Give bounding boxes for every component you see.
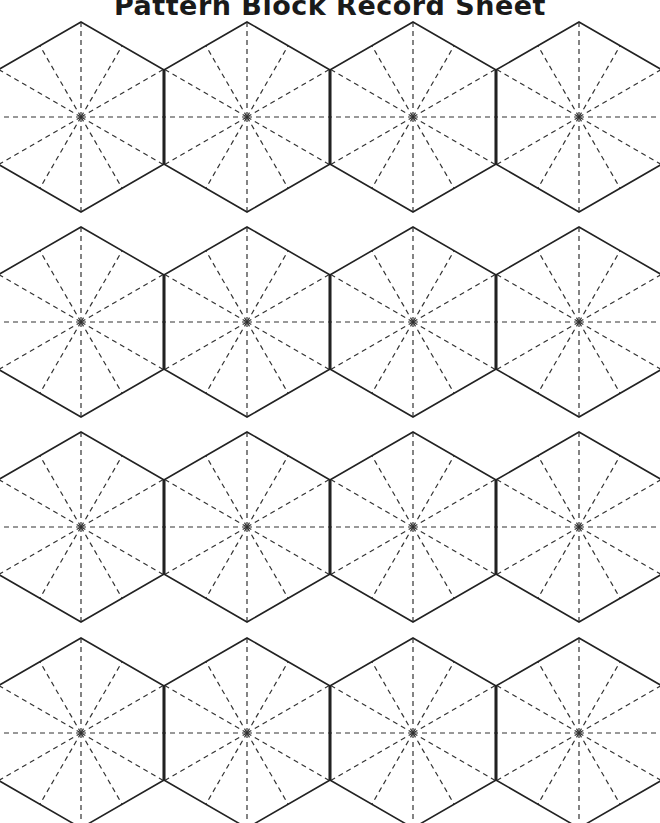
dashed-guide-line bbox=[81, 251, 122, 322]
dashed-guide-line bbox=[0, 70, 81, 118]
dashed-guide-line bbox=[81, 686, 163, 734]
dashed-guide-line bbox=[413, 251, 454, 322]
dashed-guide-line bbox=[40, 662, 81, 733]
dashed-guide-line bbox=[579, 46, 620, 117]
hexagon-block-7 bbox=[331, 227, 496, 417]
hexagon-block-11 bbox=[331, 432, 496, 622]
dashed-guide-line bbox=[413, 117, 495, 165]
dashed-guide-line bbox=[81, 322, 122, 393]
dashed-guide-line bbox=[372, 456, 413, 527]
dashed-guide-line bbox=[372, 527, 413, 598]
dashed-guide-line bbox=[497, 117, 579, 165]
dashed-guide-line bbox=[372, 251, 413, 322]
dashed-guide-line bbox=[247, 527, 329, 575]
dashed-guide-line bbox=[165, 480, 247, 528]
dashed-guide-line bbox=[413, 275, 495, 323]
dashed-guide-line bbox=[0, 275, 81, 323]
dashed-guide-line bbox=[81, 527, 122, 598]
dashed-guide-line bbox=[579, 527, 620, 598]
dashed-guide-line bbox=[579, 480, 660, 528]
dashed-guide-line bbox=[0, 117, 81, 165]
hexagon-block-8 bbox=[497, 227, 660, 417]
dashed-guide-line bbox=[81, 70, 163, 118]
dashed-guide-line bbox=[538, 46, 579, 117]
dashed-guide-line bbox=[206, 322, 247, 393]
dashed-guide-line bbox=[81, 733, 163, 781]
dashed-guide-line bbox=[579, 733, 620, 804]
dashed-guide-line bbox=[206, 46, 247, 117]
dashed-guide-line bbox=[331, 322, 413, 370]
hexagon-block-4 bbox=[497, 22, 660, 212]
dashed-guide-line bbox=[331, 527, 413, 575]
dashed-guide-line bbox=[0, 480, 81, 528]
dashed-guide-line bbox=[81, 456, 122, 527]
hexagon-block-14 bbox=[165, 638, 330, 823]
dashed-guide-line bbox=[40, 456, 81, 527]
dashed-guide-line bbox=[206, 527, 247, 598]
dashed-guide-line bbox=[413, 456, 454, 527]
dashed-guide-line bbox=[579, 322, 620, 393]
dashed-guide-line bbox=[497, 686, 579, 734]
dashed-guide-line bbox=[206, 251, 247, 322]
hexagon-block-12 bbox=[497, 432, 660, 622]
dashed-guide-line bbox=[538, 117, 579, 188]
dashed-guide-line bbox=[81, 527, 163, 575]
dashed-guide-line bbox=[331, 480, 413, 528]
dashed-guide-line bbox=[0, 527, 81, 575]
dashed-guide-line bbox=[413, 527, 495, 575]
dashed-guide-line bbox=[413, 46, 454, 117]
dashed-guide-line bbox=[247, 662, 288, 733]
dashed-guide-line bbox=[0, 733, 81, 781]
dashed-guide-line bbox=[165, 275, 247, 323]
dashed-guide-line bbox=[165, 322, 247, 370]
dashed-guide-line bbox=[413, 117, 454, 188]
dashed-guide-line bbox=[206, 733, 247, 804]
dashed-guide-line bbox=[206, 662, 247, 733]
dashed-guide-line bbox=[165, 733, 247, 781]
dashed-guide-line bbox=[165, 117, 247, 165]
dashed-guide-line bbox=[247, 322, 329, 370]
dashed-guide-line bbox=[247, 46, 288, 117]
dashed-guide-line bbox=[372, 117, 413, 188]
dashed-guide-line bbox=[247, 117, 329, 165]
dashed-guide-line bbox=[81, 117, 163, 165]
dashed-guide-line bbox=[81, 117, 122, 188]
dashed-guide-line bbox=[538, 251, 579, 322]
dashed-guide-line bbox=[497, 275, 579, 323]
dashed-guide-line bbox=[247, 70, 329, 118]
hexagon-block-6 bbox=[165, 227, 330, 417]
dashed-guide-line bbox=[538, 322, 579, 393]
dashed-guide-line bbox=[413, 733, 495, 781]
dashed-guide-line bbox=[579, 117, 620, 188]
hexagon-block-13 bbox=[0, 638, 163, 823]
dashed-guide-line bbox=[331, 686, 413, 734]
dashed-guide-line bbox=[497, 527, 579, 575]
dashed-guide-line bbox=[0, 686, 81, 734]
dashed-guide-line bbox=[247, 527, 288, 598]
dashed-guide-line bbox=[579, 686, 660, 734]
hexagon-block-15 bbox=[331, 638, 496, 823]
dashed-guide-line bbox=[40, 527, 81, 598]
dashed-guide-line bbox=[165, 70, 247, 118]
dashed-guide-line bbox=[413, 70, 495, 118]
dashed-guide-line bbox=[331, 275, 413, 323]
dashed-guide-line bbox=[247, 733, 288, 804]
dashed-guide-line bbox=[579, 117, 660, 165]
dashed-guide-line bbox=[40, 322, 81, 393]
dashed-guide-line bbox=[579, 251, 620, 322]
hexagon-block-3 bbox=[331, 22, 496, 212]
dashed-guide-line bbox=[247, 275, 329, 323]
dashed-guide-line bbox=[538, 733, 579, 804]
dashed-guide-line bbox=[247, 456, 288, 527]
hexagon-block-16 bbox=[497, 638, 660, 823]
dashed-guide-line bbox=[40, 117, 81, 188]
dashed-guide-line bbox=[0, 322, 81, 370]
dashed-guide-line bbox=[165, 686, 247, 734]
dashed-guide-line bbox=[206, 456, 247, 527]
dashed-guide-line bbox=[81, 662, 122, 733]
dashed-guide-line bbox=[206, 117, 247, 188]
dashed-guide-line bbox=[40, 46, 81, 117]
dashed-guide-line bbox=[247, 251, 288, 322]
dashed-guide-line bbox=[413, 322, 495, 370]
dashed-guide-line bbox=[413, 662, 454, 733]
